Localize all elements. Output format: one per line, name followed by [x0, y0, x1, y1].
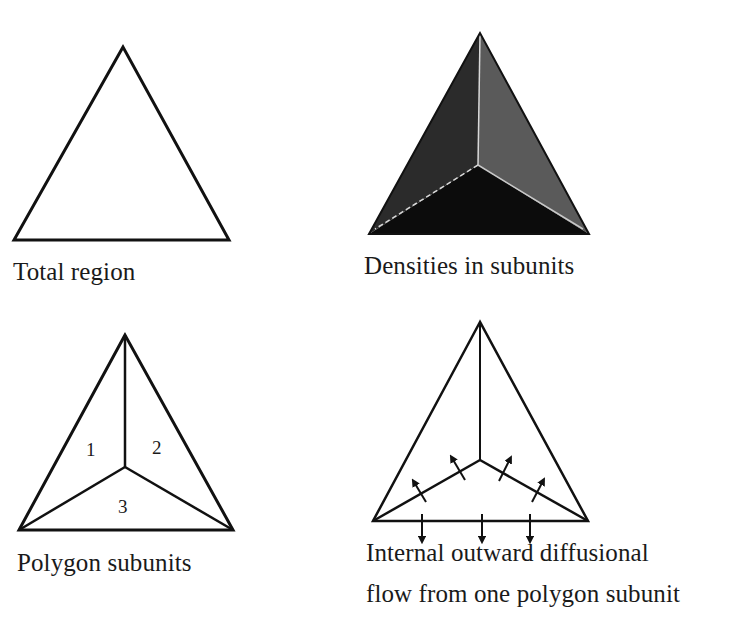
- diffusional-flow-triangle: [373, 322, 588, 521]
- arrow-up-icon: [499, 459, 510, 481]
- caption-total-region: Total region: [13, 258, 135, 286]
- subunit-label-1: 1: [86, 440, 96, 461]
- densities-triangle: [369, 33, 589, 234]
- caption-polygon-subunits: Polygon subunits: [17, 549, 192, 577]
- caption-diffusional-flow-line2: flow from one polygon subunit: [366, 580, 680, 608]
- subunit-label-3: 3: [118, 497, 128, 518]
- subunit-label-2: 2: [152, 438, 162, 459]
- caption-densities: Densities in subunits: [364, 252, 574, 280]
- total-region-triangle: [14, 47, 229, 240]
- outward-flow-arrows: [414, 458, 543, 540]
- caption-diffusional-flow-line1: Internal outward diffusional: [366, 539, 649, 567]
